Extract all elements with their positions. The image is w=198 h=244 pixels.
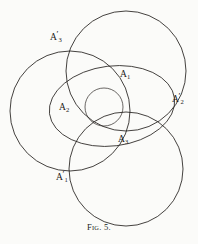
label-A3-base: A — [118, 134, 125, 144]
label-A3: A3 — [118, 135, 128, 145]
label-A2-base: A — [59, 102, 66, 112]
circle-small-center — [85, 88, 123, 126]
circle-left — [10, 51, 130, 171]
geometry-diagram — [0, 0, 198, 244]
label-A3-prime: A′3 — [50, 30, 62, 43]
label-A2-sub: 2 — [66, 106, 69, 113]
caption-suffix: . 5. — [99, 222, 111, 232]
label-A1-base: A — [120, 69, 127, 79]
label-A3-sub: 3 — [125, 138, 128, 145]
label-A1-prime: A′1 — [56, 170, 68, 183]
label-A2-prime-sub: 2 — [180, 98, 183, 105]
figure-caption: FIG. 5. — [0, 222, 198, 232]
figure-container: A′3 A1 A′2 A2 A3 A′1 FIG. 5. — [0, 0, 198, 244]
label-A1-sub: 1 — [127, 73, 130, 80]
label-A2: A2 — [59, 103, 69, 113]
label-A2-prime: A′2 — [172, 92, 184, 105]
label-A1: A1 — [120, 70, 130, 80]
label-A3-prime-sub: 3 — [58, 36, 61, 43]
label-A1-prime-sub: 1 — [64, 176, 67, 183]
